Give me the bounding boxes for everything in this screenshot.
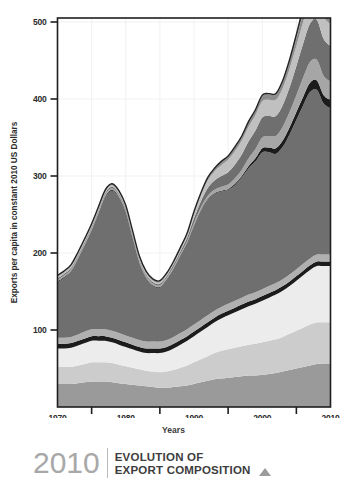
y-tick-label: 500 [33, 17, 47, 27]
y-tick-label: 300 [33, 171, 47, 181]
footer-title-block: EVOLUTION OF EXPORT COMPOSITION [115, 448, 251, 476]
y-axis-title: Exports per capita in constant 2010 US D… [10, 121, 19, 303]
x-axis-title: Years [0, 425, 347, 435]
footer-title-line-2: EXPORT COMPOSITION [115, 464, 251, 477]
footer-year: 2010 [33, 448, 107, 478]
chart-container: 10020030040050019701980199020002010Expor… [0, 0, 347, 418]
triangle-up-icon [259, 468, 271, 476]
footer-title-line-1: EVOLUTION OF [115, 451, 251, 464]
x-tick-label: 1980 [117, 413, 136, 418]
stacked-area-chart: 10020030040050019701980199020002010Expor… [0, 0, 347, 418]
x-tick-label: 2000 [253, 413, 272, 418]
y-tick-label: 200 [33, 248, 47, 258]
x-axis: 19701980199020002010 [48, 407, 340, 418]
x-tick-label: 1970 [48, 413, 67, 418]
footer-caption: 2010 EVOLUTION OF EXPORT COMPOSITION [33, 448, 271, 478]
x-tick-label: 1990 [185, 413, 204, 418]
footer-divider [107, 448, 108, 478]
x-tick-label: 2010 [321, 413, 340, 418]
chart-page: 10020030040050019701980199020002010Expor… [0, 0, 347, 485]
y-axis: 100200300400500 [33, 17, 58, 335]
y-tick-label: 400 [33, 94, 47, 104]
y-tick-label: 100 [33, 325, 47, 335]
